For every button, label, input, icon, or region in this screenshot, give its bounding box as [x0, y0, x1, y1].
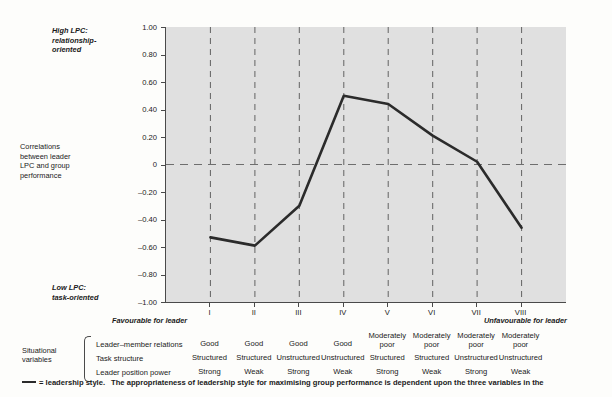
y-tick-label: 0.60 — [115, 78, 157, 87]
situational-row-label: Task structure — [96, 354, 143, 363]
situational-cell: Weak — [493, 368, 549, 377]
situational-row-label: Leader–member relations — [96, 340, 183, 349]
y-tick-label: –1.00 — [115, 298, 157, 307]
y-tick-label: –0.60 — [115, 243, 157, 252]
legend-text: = leadership style. — [39, 378, 105, 387]
y-tick-label: 1.00 — [115, 23, 157, 32]
x-tick-label: VI — [412, 308, 452, 317]
brace-decoration — [84, 336, 91, 382]
y-tick-label: 0 — [115, 160, 157, 169]
x-tick-label: V — [367, 308, 407, 317]
situational-variables-title: Situational variables — [22, 346, 82, 365]
x-tick-label: III — [278, 308, 318, 317]
situational-row-label: Leader position power — [96, 368, 171, 377]
x-tick-label: II — [234, 308, 274, 317]
situational-cell: Moderately poor — [493, 332, 549, 350]
chart-plot-area — [165, 27, 566, 303]
x-tick-label: I — [189, 308, 229, 317]
x-tick-mark — [343, 302, 344, 307]
y-tick-label: 0.40 — [115, 105, 157, 114]
caption-text: The appropriateness of leadership style … — [111, 378, 544, 387]
figure-caption: = leadership style.The appropriateness o… — [22, 378, 608, 387]
x-tick-label: IV — [323, 308, 363, 317]
situational-variables-table: Situational variables Leader–member rela… — [22, 336, 612, 384]
x-tick-mark — [254, 302, 255, 307]
unfavourable-for-leader-label: Unfavourable for leader — [484, 316, 567, 325]
line-swatch-icon — [22, 381, 36, 383]
x-tick-mark — [298, 302, 299, 307]
leadership-style-line — [210, 96, 521, 246]
x-tick-mark — [209, 302, 210, 307]
y-tick-label: –0.40 — [115, 215, 157, 224]
chart-svg — [166, 27, 566, 302]
situational-cell: Unstructured — [493, 354, 549, 363]
x-tick-mark — [432, 302, 433, 307]
figure-page: High LPC: relationship- oriented Correla… — [0, 0, 612, 397]
x-tick-mark — [476, 302, 477, 307]
x-tick-mark — [521, 302, 522, 307]
y-tick-label: –0.20 — [115, 188, 157, 197]
x-tick-mark — [387, 302, 388, 307]
y-tick-label: –0.80 — [115, 270, 157, 279]
y-tick-label: 0.80 — [115, 50, 157, 59]
favourable-for-leader-label: Favourable for leader — [112, 316, 187, 325]
y-tick-label: 0.20 — [115, 133, 157, 142]
